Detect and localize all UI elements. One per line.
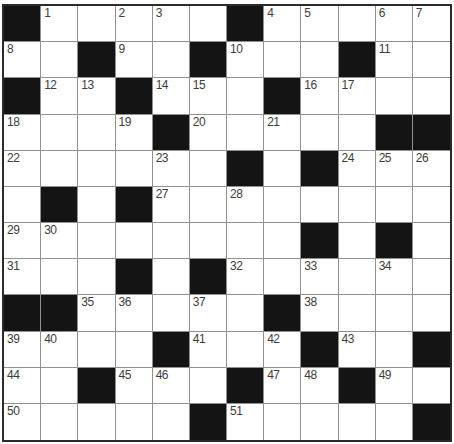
white-cell-r7c4[interactable] (116, 223, 153, 259)
white-cell-r3c9[interactable]: 16 (301, 78, 338, 114)
white-cell-r10c8[interactable]: 42 (264, 332, 301, 368)
white-cell-r3c6[interactable]: 15 (190, 78, 227, 114)
white-cell-r8c3[interactable] (78, 259, 115, 295)
white-cell-r1c8[interactable]: 4 (264, 6, 301, 42)
white-cell-r9c7[interactable] (227, 295, 264, 331)
white-cell-r4c9[interactable] (301, 115, 338, 151)
white-cell-r2c7[interactable]: 10 (227, 42, 264, 78)
white-cell-r8c7[interactable]: 32 (227, 259, 264, 295)
white-cell-r5c2[interactable] (41, 151, 78, 187)
white-cell-r7c12[interactable] (413, 223, 450, 259)
white-cell-r6c1[interactable] (4, 187, 41, 223)
white-cell-r6c3[interactable] (78, 187, 115, 223)
white-cell-r7c7[interactable] (227, 223, 264, 259)
white-cell-r5c3[interactable] (78, 151, 115, 187)
white-cell-r2c8[interactable] (264, 42, 301, 78)
white-cell-r3c12[interactable] (413, 78, 450, 114)
white-cell-r12c3[interactable] (78, 404, 115, 440)
white-cell-r5c12[interactable]: 26 (413, 151, 450, 187)
white-cell-r2c4[interactable]: 9 (116, 42, 153, 78)
white-cell-r8c9[interactable]: 33 (301, 259, 338, 295)
white-cell-r7c2[interactable]: 30 (41, 223, 78, 259)
white-cell-r1c5[interactable]: 3 (153, 6, 190, 42)
white-cell-r2c9[interactable] (301, 42, 338, 78)
white-cell-r4c2[interactable] (41, 115, 78, 151)
white-cell-r11c4[interactable]: 45 (116, 368, 153, 404)
white-cell-r5c4[interactable] (116, 151, 153, 187)
white-cell-r6c5[interactable]: 27 (153, 187, 190, 223)
white-cell-r8c8[interactable] (264, 259, 301, 295)
white-cell-r10c2[interactable]: 40 (41, 332, 78, 368)
white-cell-r1c6[interactable] (190, 6, 227, 42)
white-cell-r9c3[interactable]: 35 (78, 295, 115, 331)
white-cell-r11c9[interactable]: 48 (301, 368, 338, 404)
white-cell-r8c11[interactable]: 34 (376, 259, 413, 295)
white-cell-r6c6[interactable] (190, 187, 227, 223)
white-cell-r11c1[interactable]: 44 (4, 368, 41, 404)
white-cell-r1c3[interactable] (78, 6, 115, 42)
white-cell-r9c4[interactable]: 36 (116, 295, 153, 331)
white-cell-r2c2[interactable] (41, 42, 78, 78)
white-cell-r11c6[interactable] (190, 368, 227, 404)
white-cell-r12c4[interactable] (116, 404, 153, 440)
white-cell-r1c9[interactable]: 5 (301, 6, 338, 42)
white-cell-r9c6[interactable]: 37 (190, 295, 227, 331)
white-cell-r12c5[interactable] (153, 404, 190, 440)
white-cell-r3c10[interactable]: 17 (339, 78, 376, 114)
white-cell-r2c1[interactable]: 8 (4, 42, 41, 78)
white-cell-r12c2[interactable] (41, 404, 78, 440)
white-cell-r12c7[interactable]: 51 (227, 404, 264, 440)
white-cell-r11c12[interactable] (413, 368, 450, 404)
white-cell-r9c5[interactable] (153, 295, 190, 331)
white-cell-r10c4[interactable] (116, 332, 153, 368)
white-cell-r8c2[interactable] (41, 259, 78, 295)
white-cell-r11c5[interactable]: 46 (153, 368, 190, 404)
white-cell-r6c9[interactable] (301, 187, 338, 223)
white-cell-r10c11[interactable] (376, 332, 413, 368)
white-cell-r5c11[interactable]: 25 (376, 151, 413, 187)
white-cell-r4c1[interactable]: 18 (4, 115, 41, 151)
white-cell-r10c10[interactable]: 43 (339, 332, 376, 368)
white-cell-r9c11[interactable] (376, 295, 413, 331)
white-cell-r8c10[interactable] (339, 259, 376, 295)
white-cell-r6c8[interactable] (264, 187, 301, 223)
white-cell-r7c5[interactable] (153, 223, 190, 259)
white-cell-r2c11[interactable]: 11 (376, 42, 413, 78)
white-cell-r11c11[interactable]: 49 (376, 368, 413, 404)
white-cell-r3c11[interactable] (376, 78, 413, 114)
white-cell-r6c11[interactable] (376, 187, 413, 223)
white-cell-r4c6[interactable]: 20 (190, 115, 227, 151)
white-cell-r5c1[interactable]: 22 (4, 151, 41, 187)
white-cell-r5c5[interactable]: 23 (153, 151, 190, 187)
white-cell-r7c8[interactable] (264, 223, 301, 259)
white-cell-r5c8[interactable] (264, 151, 301, 187)
white-cell-r9c12[interactable] (413, 295, 450, 331)
white-cell-r1c12[interactable]: 7 (413, 6, 450, 42)
white-cell-r1c4[interactable]: 2 (116, 6, 153, 42)
white-cell-r12c9[interactable] (301, 404, 338, 440)
white-cell-r3c7[interactable] (227, 78, 264, 114)
white-cell-r3c2[interactable]: 12 (41, 78, 78, 114)
white-cell-r7c3[interactable] (78, 223, 115, 259)
white-cell-r11c2[interactable] (41, 368, 78, 404)
white-cell-r12c10[interactable] (339, 404, 376, 440)
white-cell-r10c1[interactable]: 39 (4, 332, 41, 368)
white-cell-r8c12[interactable] (413, 259, 450, 295)
white-cell-r7c1[interactable]: 29 (4, 223, 41, 259)
white-cell-r3c5[interactable]: 14 (153, 78, 190, 114)
white-cell-r10c7[interactable] (227, 332, 264, 368)
white-cell-r4c8[interactable]: 21 (264, 115, 301, 151)
white-cell-r6c7[interactable]: 28 (227, 187, 264, 223)
white-cell-r1c10[interactable] (339, 6, 376, 42)
white-cell-r12c8[interactable] (264, 404, 301, 440)
white-cell-r3c3[interactable]: 13 (78, 78, 115, 114)
white-cell-r4c4[interactable]: 19 (116, 115, 153, 151)
white-cell-r7c6[interactable] (190, 223, 227, 259)
white-cell-r6c10[interactable] (339, 187, 376, 223)
white-cell-r5c6[interactable] (190, 151, 227, 187)
white-cell-r11c8[interactable]: 47 (264, 368, 301, 404)
white-cell-r1c11[interactable]: 6 (376, 6, 413, 42)
white-cell-r10c3[interactable] (78, 332, 115, 368)
white-cell-r12c1[interactable]: 50 (4, 404, 41, 440)
white-cell-r9c10[interactable] (339, 295, 376, 331)
